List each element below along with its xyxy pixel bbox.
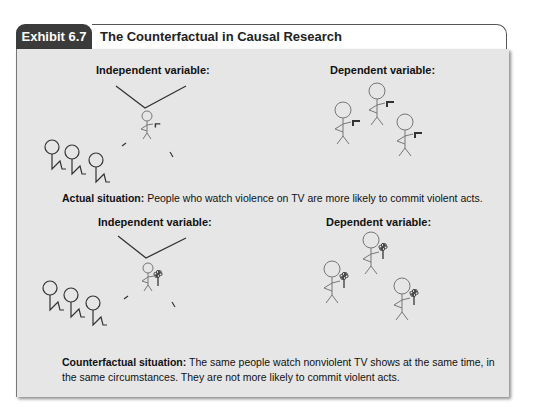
stick-figure-illustration [0, 0, 542, 409]
counterfactual-tv-viewers [43, 281, 107, 325]
actual-tv-screen [116, 86, 186, 157]
actual-tv-viewers [45, 140, 110, 182]
actual-dependent-figures [335, 83, 422, 156]
counterfactual-dependent-figures [324, 232, 418, 320]
counterfactual-tv-screen [118, 236, 186, 307]
